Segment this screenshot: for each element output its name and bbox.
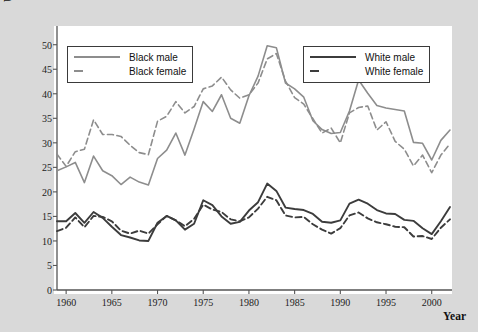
white-female-dashed-line-icon [310, 66, 356, 76]
legend-black: Black male Black female [67, 46, 193, 83]
figure-container: Unemployment rate (percent) Year 0510152… [0, 0, 478, 332]
black-male-line-icon [74, 52, 120, 62]
series-line-white-female [57, 197, 450, 239]
series-line-white-male [57, 184, 450, 241]
legend-label-black-female: Black female [129, 66, 186, 77]
black-female-dashed-line-icon [74, 66, 120, 76]
legend-item-white-female: White female [310, 64, 423, 78]
legend-white: White male White female [303, 46, 430, 83]
legend-item-black-female: Black female [74, 64, 186, 78]
white-male-line-icon [310, 52, 356, 62]
legend-item-black-male: Black male [74, 50, 186, 64]
legend-label-black-male: Black male [129, 52, 178, 63]
legend-label-white-male: White male [365, 52, 415, 63]
legend-item-white-male: White male [310, 50, 423, 64]
legend-label-white-female: White female [365, 66, 423, 77]
